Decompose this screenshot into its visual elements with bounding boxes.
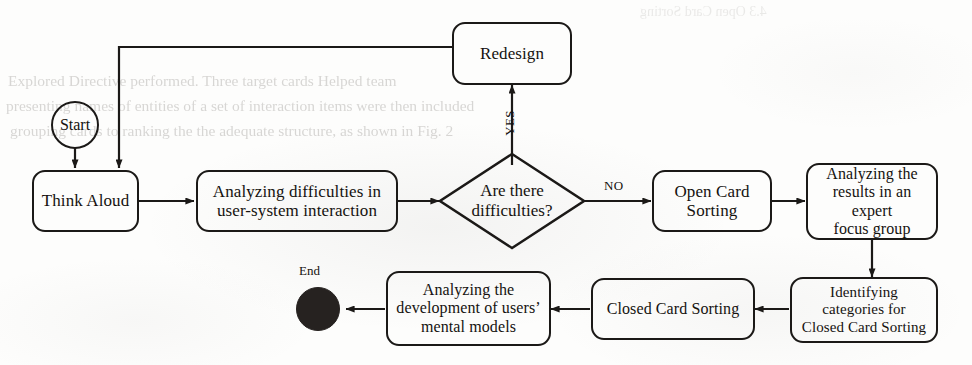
node-mental-models-line-1: Analyzing the [423,281,515,298]
node-identifying-categories-text: Identifying categories for Closed Card S… [796,284,932,335]
node-decision[interactable]: Are there difficulties? [438,152,586,250]
node-think-aloud[interactable]: Think Aloud [32,170,139,232]
ghost-heading-text: 4.3 Open Card Sorting [640,4,767,20]
node-redesign-label: Redesign [474,44,550,63]
node-mental-models[interactable]: Analyzing the development of users’ ment… [386,271,551,346]
node-identifying-categories-line-2: categories for [822,301,905,317]
node-decision-text: Are there difficulties? [472,181,553,220]
ghost-body-line-1: Explored Directive performed. Three targ… [8,72,396,90]
node-analyzing-difficulties[interactable]: Analyzing difficulties in user-system in… [196,170,398,232]
edge-label-no: NO [604,178,623,194]
node-decision-line-2: difficulties? [472,201,553,220]
node-mental-models-text: Analyzing the development of users’ ment… [390,281,546,336]
node-identifying-categories[interactable]: Identifying categories for Closed Card S… [790,277,938,343]
node-expert-focus-group-line-3: focus group [833,220,910,237]
node-end-label: End [299,263,320,279]
node-closed-card-sorting[interactable]: Closed Card Sorting [591,278,755,340]
node-open-card-sorting-line-2: Sorting [687,201,738,220]
node-analyzing-difficulties-text: Analyzing difficulties in user-system in… [207,182,387,221]
node-expert-focus-group-text: Analyzing the results in an expert focus… [808,165,936,238]
node-expert-focus-group-line-1: Analyzing the [826,165,918,182]
edge-redesign-loopback [119,47,452,168]
node-expert-focus-group[interactable]: Analyzing the results in an expert focus… [806,163,938,240]
node-mental-models-line-2: development of users’ [396,299,540,316]
node-think-aloud-label: Think Aloud [36,191,136,210]
node-analyzing-difficulties-line-1: Analyzing difficulties in [213,182,381,201]
node-analyzing-difficulties-line-2: user-system interaction [217,201,377,220]
node-closed-card-sorting-label: Closed Card Sorting [601,300,746,318]
node-identifying-categories-line-3: Closed Card Sorting [802,319,926,335]
node-open-card-sorting-text: Open Card Sorting [668,182,755,221]
node-start[interactable]: Start [51,101,99,149]
node-identifying-categories-line-1: Identifying [830,284,898,300]
node-mental-models-line-3: mental models [421,318,516,335]
node-decision-line-1: Are there [480,181,544,200]
node-open-card-sorting[interactable]: Open Card Sorting [652,170,772,232]
node-start-label: Start [60,116,90,134]
node-redesign[interactable]: Redesign [452,22,572,85]
node-open-card-sorting-line-1: Open Card [674,182,749,201]
node-end[interactable] [296,287,340,331]
node-expert-focus-group-line-2: results in an expert [833,183,912,218]
edge-label-yes: YES [502,110,518,135]
flowchart-page: 4.3 Open Card Sorting Explored Directive… [0,0,972,365]
